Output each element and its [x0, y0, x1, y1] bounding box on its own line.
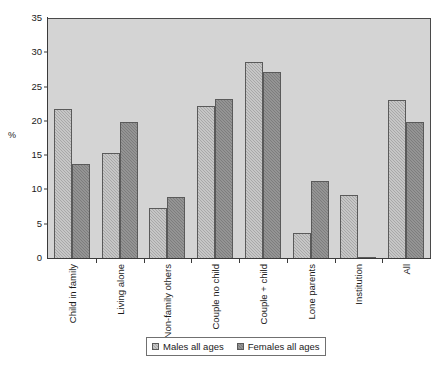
x-axis-label: All: [402, 264, 412, 277]
bar-males: [102, 153, 120, 259]
x-axis-label-text: Non-family others: [163, 264, 173, 340]
x-axis-label: Living alone: [116, 264, 126, 317]
y-tick-label: 20: [31, 116, 42, 126]
y-tick-label: 10: [31, 184, 42, 194]
x-tick-mark: [96, 259, 97, 263]
bar-females: [167, 197, 185, 259]
y-tick-label: 30: [31, 47, 42, 57]
y-tick-label: 0: [37, 253, 42, 263]
bar-females: [406, 122, 424, 259]
bar-males: [340, 195, 358, 259]
x-axis-label-text: All: [402, 264, 412, 277]
y-axis-ticks: 05101520253035: [0, 0, 46, 376]
y-tick-label: 15: [31, 150, 42, 160]
x-axis-label-text: Child in family: [68, 264, 78, 325]
y-tick-label: 35: [31, 13, 42, 23]
x-axis-label: Non-family others: [163, 264, 173, 340]
bar-males: [149, 208, 167, 259]
x-axis-category-labels: Child in familyLiving aloneNon-family ot…: [48, 264, 430, 330]
legend-label: Females all ages: [248, 341, 320, 352]
x-axis-label: Institution: [354, 264, 364, 307]
x-axis-label: Couple + child: [259, 264, 269, 326]
x-axis-label: Couple no child: [211, 264, 221, 332]
x-axis-label-text: Living alone: [116, 264, 126, 317]
bar-males: [245, 62, 263, 259]
legend-label: Males all ages: [163, 341, 224, 352]
bar-males: [388, 100, 406, 259]
x-axis-label-text: Couple no child: [211, 264, 221, 332]
x-tick-mark: [335, 259, 336, 263]
x-axis-label-text: Lone parents: [307, 264, 317, 321]
bar-females: [120, 122, 138, 259]
bars-layer: [48, 19, 430, 259]
y-tick-label: 25: [31, 82, 42, 92]
bar-chart: % 05101520253035 Child in familyLiving a…: [0, 0, 447, 376]
legend-swatch-icon: [237, 343, 244, 350]
bar-females: [72, 164, 90, 259]
x-tick-mark: [382, 259, 383, 263]
x-tick-mark: [287, 259, 288, 263]
legend-item: Females all ages: [237, 341, 320, 352]
bar-males: [54, 109, 72, 259]
bar-males: [197, 106, 215, 259]
legend-swatch-icon: [152, 343, 159, 350]
plot-area: [48, 18, 431, 259]
x-axis-label-text: Couple + child: [259, 264, 269, 326]
chart-legend: Males all agesFemales all ages: [146, 337, 326, 356]
x-tick-mark: [239, 259, 240, 263]
x-tick-mark: [191, 259, 192, 263]
bar-males: [293, 233, 311, 259]
bar-females: [311, 181, 329, 259]
x-axis-label: Child in family: [68, 264, 78, 325]
x-axis-label: Lone parents: [307, 264, 317, 321]
legend-item: Males all ages: [152, 341, 224, 352]
y-tick-label: 5: [37, 219, 42, 229]
bar-females: [263, 72, 281, 259]
x-axis-label-text: Institution: [354, 264, 364, 307]
x-tick-mark: [144, 259, 145, 263]
bar-females: [215, 99, 233, 259]
